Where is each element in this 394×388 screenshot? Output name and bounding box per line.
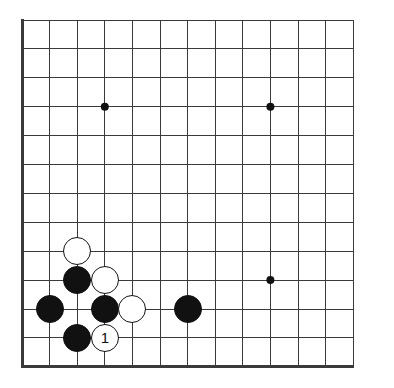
black-stone[interactable]	[174, 295, 202, 323]
black-stone[interactable]	[63, 324, 91, 352]
go-diagram: 1	[0, 0, 394, 388]
black-stone[interactable]	[36, 295, 64, 323]
move-number-label: 1	[101, 330, 109, 345]
white-stone[interactable]	[91, 266, 119, 294]
star-point	[101, 103, 109, 111]
white-stone[interactable]: 1	[91, 324, 119, 352]
star-point	[266, 276, 274, 284]
go-board[interactable]	[0, 0, 394, 388]
black-stone[interactable]	[91, 295, 119, 323]
star-point	[266, 103, 274, 111]
